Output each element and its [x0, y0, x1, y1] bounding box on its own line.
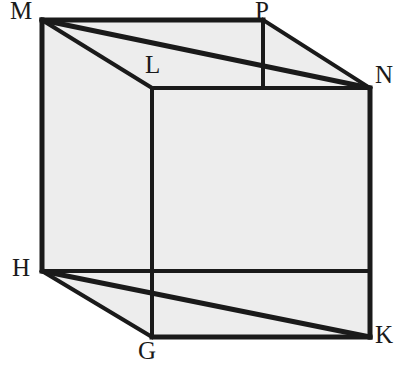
- vertex-label-M: M: [10, 0, 32, 23]
- vertex-label-P: P: [255, 0, 269, 23]
- vertex-label-N: N: [375, 62, 393, 87]
- vertex-label-H: H: [12, 255, 30, 280]
- vertex-label-L: L: [145, 52, 160, 77]
- cube-silhouette-fill: [42, 20, 370, 337]
- vertex-label-G: G: [138, 338, 156, 363]
- cube-diagram-figure: M P L N H G K: [0, 0, 405, 383]
- vertex-label-K: K: [375, 322, 393, 347]
- cube-drawing: [0, 0, 405, 383]
